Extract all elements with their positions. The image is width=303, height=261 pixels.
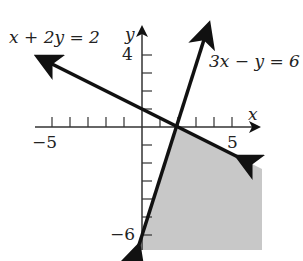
inequality-graph: x + 2y = 2 3x − y = 6 y x 4 −6 −5 5 — [0, 0, 303, 261]
x-tick-5: 5 — [227, 132, 238, 152]
y-axis-label: y — [124, 24, 135, 44]
x-tick-neg5: −5 — [32, 132, 57, 152]
line1-label: x + 2y = 2 — [9, 27, 100, 47]
line-x-plus-2y — [40, 58, 240, 158]
line2-label: 3x − y = 6 — [209, 51, 300, 71]
y-tick-4: 4 — [122, 44, 133, 64]
y-tick-neg6: −6 — [110, 224, 135, 244]
x-axis-label: x — [248, 104, 258, 124]
shaded-region — [142, 127, 262, 250]
